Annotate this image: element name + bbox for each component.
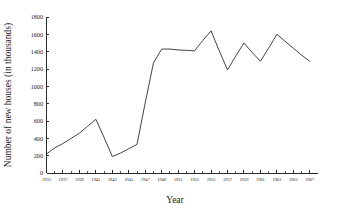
y-axis-title: Number of new houses (in thousands) — [3, 23, 14, 167]
x-tick-label: 1955 — [207, 177, 217, 182]
x-tick-label: 1963 — [272, 177, 282, 182]
y-tick-label: 600 — [34, 117, 43, 124]
y-tick-label: 1600 — [31, 31, 43, 38]
line-chart: 020040060080010001200140016001800 193519… — [0, 0, 341, 212]
x-tick-label: 1959 — [240, 177, 250, 182]
x-tick-label: 1957 — [223, 177, 233, 182]
x-tick-label: 1945 — [124, 177, 134, 182]
y-tick-label: 400 — [34, 135, 43, 142]
y-tick-label: 1200 — [31, 65, 43, 72]
chart-canvas: 020040060080010001200140016001800 193519… — [0, 0, 341, 212]
y-tick-label: 1000 — [31, 83, 43, 90]
x-tick-label: 1937 — [59, 177, 69, 182]
x-tick-label: 1949 — [157, 177, 167, 182]
y-tick-label: 0 — [40, 169, 43, 176]
x-tick-label: 1935 — [42, 177, 52, 182]
x-tick-label: 1953 — [190, 177, 200, 182]
x-tick-label: 1943 — [108, 177, 118, 182]
x-tick-label: 1941 — [91, 177, 100, 182]
y-tick-label: 1400 — [31, 48, 43, 55]
x-tick-label: 1951 — [174, 177, 183, 182]
y-tick-label: 1800 — [31, 13, 43, 20]
x-tick-label: 1961 — [256, 177, 265, 182]
y-axis-tick-labels: 020040060080010001200140016001800 — [31, 13, 43, 176]
x-tick-label: 1939 — [75, 177, 85, 182]
data-series-line — [47, 31, 310, 157]
y-tick-label: 200 — [34, 152, 43, 159]
x-tick-label: 1967 — [305, 177, 315, 182]
y-tick-label: 800 — [34, 100, 43, 107]
x-tick-label: 1965 — [289, 177, 299, 182]
x-axis-title: Year — [166, 195, 184, 205]
x-axis-tick-labels: 1935193719391941194319451947194919511953… — [42, 177, 315, 182]
x-tick-label: 1947 — [141, 177, 151, 182]
